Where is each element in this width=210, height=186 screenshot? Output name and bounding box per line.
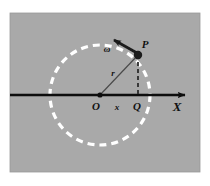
figure-panel [10,13,200,172]
label-origin: O [92,100,100,112]
label-particle-p: P [142,38,149,50]
label-displacement-x: x [114,102,120,112]
label-axis-x: X [172,99,182,114]
figure-root: O x Q X P r ω [0,0,210,186]
origin-point-dot [97,92,102,97]
circular-motion-diagram: O x Q X P r ω [0,0,210,186]
label-radius-r: r [111,68,115,78]
label-omega: ω [104,44,111,54]
particle-point-dot [134,51,142,59]
label-projection-q: Q [133,100,141,112]
